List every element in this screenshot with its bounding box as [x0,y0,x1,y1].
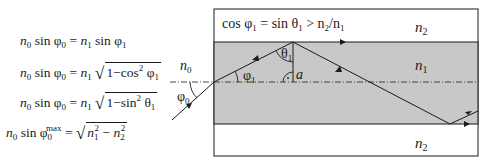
label-n0: n0 [180,58,192,75]
fiber-diagram: n0 φ0 φ1 θ1 a n1 n2 n2 cos φ1 = sin θ1 >… [0,0,486,165]
label-a: a [296,67,303,82]
right-angle-dot [287,77,289,79]
phi0-arc [190,82,197,98]
label-phi0: φ0 [177,89,190,106]
